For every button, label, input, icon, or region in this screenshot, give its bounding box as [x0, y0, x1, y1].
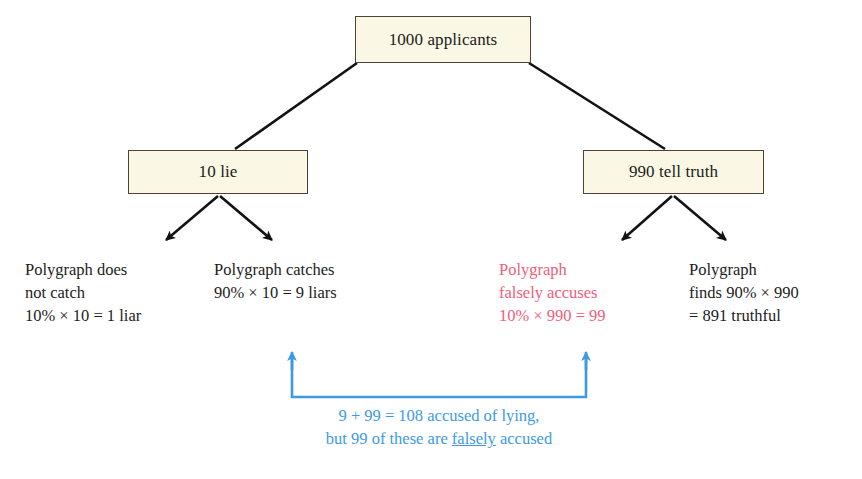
diagram-canvas: 1000 applicants 10 lie 990 tell truth Po…	[0, 0, 862, 479]
annotation-summary: 9 + 99 = 108 accused of lying, but 99 of…	[258, 404, 620, 450]
node-liars: 10 lie	[128, 150, 308, 194]
leaf-not-catch-line-2: not catch	[25, 281, 141, 304]
node-truth-tellers-label: 990 tell truth	[629, 162, 718, 182]
edge-root-to-lie	[235, 63, 357, 149]
node-root-applicants: 1000 applicants	[355, 16, 531, 63]
leaf-not-catch-line-1: Polygraph does	[25, 258, 141, 281]
annotation-line-2-after: accused	[496, 429, 552, 448]
annotation-line-2: but 99 of these are falsely accused	[258, 427, 620, 450]
leaf-catches-line-1: Polygraph catches	[214, 258, 337, 281]
edge-root-to-truth	[529, 63, 665, 149]
node-root-label: 1000 applicants	[389, 30, 498, 50]
leaf-polygraph-catches: Polygraph catches 90% × 10 = 9 liars	[214, 258, 337, 304]
leaf-falsely-line-1: Polygraph	[499, 258, 606, 281]
leaf-not-catch-line-3: 10% × 10 = 1 liar	[25, 304, 141, 327]
leaf-truthful-line-3: = 891 truthful	[689, 304, 799, 327]
leaf-catches-line-2: 90% × 10 = 9 liars	[214, 281, 337, 304]
leaf-polygraph-finds-truthful: Polygraph finds 90% × 990 = 891 truthful	[689, 258, 799, 327]
annotation-line-2-before: but 99 of these are	[326, 429, 452, 448]
leaf-falsely-line-3: 10% × 990 = 99	[499, 304, 606, 327]
annotation-bracket	[292, 352, 586, 397]
leaf-falsely-line-2: falsely accuses	[499, 281, 606, 304]
edge-lie-to-caught	[220, 196, 272, 240]
edge-lie-to-not-caught	[166, 196, 218, 240]
edge-truth-to-found-truthful	[674, 196, 726, 240]
node-truth-tellers: 990 tell truth	[583, 150, 764, 194]
annotation-line-1: 9 + 99 = 108 accused of lying,	[258, 404, 620, 427]
edge-truth-to-falsely-accused	[622, 196, 672, 240]
leaf-truthful-line-1: Polygraph	[689, 258, 799, 281]
annotation-line-2-underlined: falsely	[452, 429, 496, 448]
leaf-polygraph-falsely-accuses: Polygraph falsely accuses 10% × 990 = 99	[499, 258, 606, 327]
leaf-polygraph-not-catch: Polygraph does not catch 10% × 10 = 1 li…	[25, 258, 141, 327]
leaf-truthful-line-2: finds 90% × 990	[689, 281, 799, 304]
node-liars-label: 10 lie	[199, 162, 238, 182]
